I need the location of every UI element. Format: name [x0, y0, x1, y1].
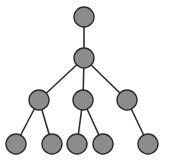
tree-node — [74, 48, 94, 68]
tree-node — [6, 134, 26, 154]
tree-edges — [16, 17, 148, 144]
tree-node — [117, 90, 137, 110]
tree-nodes — [6, 7, 158, 154]
tree-diagram — [0, 0, 171, 164]
tree-node — [42, 134, 62, 154]
tree-node — [138, 134, 158, 154]
tree-node — [93, 134, 113, 154]
tree-node — [74, 7, 94, 27]
tree-node — [29, 90, 49, 110]
tree-node — [67, 134, 87, 154]
tree-node — [73, 90, 93, 110]
